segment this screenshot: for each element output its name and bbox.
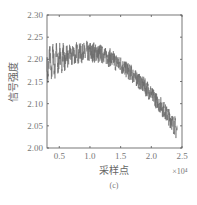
x-tick-label: 1.0	[84, 151, 96, 161]
signal-strength-chart: 0.51.01.52.02.5 2.002.052.102.152.202.25…	[0, 0, 197, 205]
y-axis-label: 信号强度	[7, 62, 19, 102]
y-tick-label: 2.15	[27, 77, 43, 87]
x-tick-label: 1.5	[115, 151, 127, 161]
y-tick-label: 2.30	[27, 10, 43, 20]
x-tick-label: 2.5	[176, 151, 188, 161]
figure-caption: (c)	[110, 181, 119, 190]
y-axis-ticks: 2.002.052.102.152.202.252.30	[27, 10, 182, 153]
y-tick-label: 2.05	[27, 121, 43, 131]
y-tick-label: 2.20	[27, 54, 43, 64]
y-tick-label: 2.10	[27, 99, 43, 109]
x-axis-label: 采样点	[99, 164, 129, 176]
x-axis-multiplier: ×10⁴	[172, 167, 188, 176]
x-tick-label: 0.5	[54, 151, 66, 161]
y-tick-label: 2.00	[27, 143, 43, 153]
x-axis-ticks: 0.51.01.52.02.5	[54, 15, 188, 161]
plot-frame	[47, 15, 182, 148]
x-tick-label: 2.0	[146, 151, 158, 161]
y-tick-label: 2.25	[27, 32, 43, 42]
signal-line	[47, 41, 177, 138]
plot-area	[47, 41, 177, 138]
